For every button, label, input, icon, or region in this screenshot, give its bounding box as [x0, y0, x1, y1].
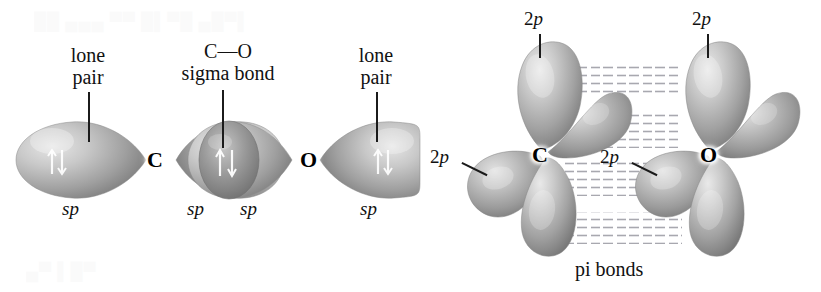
orbital-label-sp-2: sp	[187, 198, 204, 219]
orbital-label-2p-carbon-left-letter: p	[440, 146, 450, 167]
atom-label-oxygen-pi: O	[700, 143, 717, 168]
caption-pi-bonds: pi bonds	[575, 258, 643, 280]
label-sigma-bond: C—O sigma bond	[158, 40, 298, 85]
leader-line-2p-oxygen-top	[707, 34, 709, 58]
orbital-label-2p-carbon-top-letter: p	[534, 8, 544, 29]
orbital-label-2p-carbon-top-number: 2	[524, 8, 534, 29]
pi-orbital-artwork	[420, 0, 821, 292]
orbital-label-2p-oxygen-top-number: 2	[692, 8, 702, 29]
label-lone-pair-left: lone pair	[45, 44, 131, 89]
atom-label-oxygen: O	[300, 148, 317, 173]
leader-line-lone-pair-right	[376, 92, 378, 142]
sp-lobe-outer-left	[16, 122, 146, 198]
sigma-panel: lone pair C—O sigma bond lone pair C O s…	[0, 0, 420, 292]
orbital-label-2p-carbon-left-number: 2	[430, 146, 440, 167]
label-lone-pair-left-line2: pair	[45, 66, 131, 88]
label-sigma-bond-line2: sigma bond	[158, 62, 298, 84]
orbital-label-2p-oxygen-left-letter: p	[610, 146, 620, 167]
orbital-label-sp-1: sp	[62, 198, 79, 219]
label-lone-pair-right: lone pair	[333, 44, 419, 89]
leader-line-2p-carbon-top	[539, 34, 541, 58]
sigma-overlap-region	[199, 121, 259, 199]
label-lone-pair-right-line1: lone	[333, 44, 419, 66]
orbital-label-2p-carbon-left: 2p	[430, 146, 449, 167]
label-lone-pair-left-line1: lone	[45, 44, 131, 66]
atom-label-carbon-pi: C	[532, 143, 548, 168]
label-sigma-bond-line1: C—O	[158, 40, 298, 62]
pi-panel: 2p 2p 2p 2p C O pi bonds	[420, 0, 821, 292]
orbital-label-2p-oxygen-top: 2p	[692, 8, 711, 29]
leader-line-sigma-bond	[222, 90, 224, 148]
orbital-label-2p-oxygen-left: 2p	[600, 146, 619, 167]
sp-lobe-outer-right	[320, 122, 420, 198]
orbital-label-sp-3: sp	[240, 198, 257, 219]
orbital-label-2p-carbon-top: 2p	[524, 8, 543, 29]
orbital-label-2p-oxygen-top-letter: p	[702, 8, 712, 29]
leader-line-lone-pair-left	[88, 92, 90, 142]
atom-label-carbon: C	[147, 148, 163, 173]
label-lone-pair-right-line2: pair	[333, 66, 419, 88]
orbital-label-sp-4: sp	[360, 198, 377, 219]
co-orbital-diagram: ██ ▄▄▄ ▀▀ █▌▀█ ▄█▀▌ ▄▀ ▌█▀	[0, 0, 821, 292]
orbital-label-2p-oxygen-left-number: 2	[600, 146, 610, 167]
